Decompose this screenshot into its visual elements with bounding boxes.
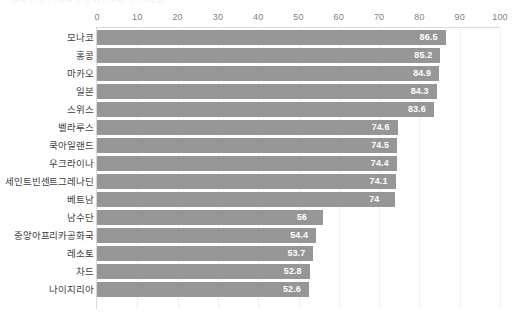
category-label: 쿡아일랜드 bbox=[49, 138, 94, 153]
bar-value-label: 83.6 bbox=[408, 102, 426, 117]
category-label: 벨라루스 bbox=[58, 120, 94, 135]
bar-value-label: 52.6 bbox=[283, 282, 301, 297]
bar-row: 모나코86.5 bbox=[0, 30, 528, 48]
category-label: 레소토 bbox=[67, 246, 94, 261]
x-tick-label: 30 bbox=[198, 12, 238, 22]
bar-row: 남수단56 bbox=[0, 210, 528, 228]
x-tick-label: 100 bbox=[480, 12, 520, 22]
bar bbox=[97, 48, 440, 63]
bar-rows: 모나코86.5홍콩85.2마카오84.9일본84.3스위스83.6벨라루스74.… bbox=[0, 30, 528, 300]
bar bbox=[97, 282, 309, 297]
category-label: 베트남 bbox=[67, 192, 94, 207]
bar-value-label: 52.8 bbox=[284, 264, 302, 279]
bar-row: 레소토53.7 bbox=[0, 246, 528, 264]
bar-row: 베트남74 bbox=[0, 192, 528, 210]
bar-row: 세인트빈센트그레나딘74.1 bbox=[0, 174, 528, 192]
category-label: 마카오 bbox=[67, 66, 94, 81]
bar-value-label: 74.1 bbox=[370, 174, 388, 189]
category-label: 차드 bbox=[76, 264, 94, 279]
bar-row: 홍콩85.2 bbox=[0, 48, 528, 66]
bar-row: 스위스83.6 bbox=[0, 102, 528, 120]
category-label: 스위스 bbox=[67, 102, 94, 117]
bar-value-label: 53.7 bbox=[287, 246, 305, 261]
bar-row: 중앙아프리카공화국54.4 bbox=[0, 228, 528, 246]
category-label: 나이지리아 bbox=[49, 282, 94, 297]
bar-chart: 세계 각국 기대수명 상위 / 하위 국가 비교 010203040506070… bbox=[0, 0, 528, 317]
bar-value-label: 85.2 bbox=[414, 48, 432, 63]
bar-value-label: 74.5 bbox=[371, 138, 389, 153]
bar bbox=[97, 156, 397, 171]
bar-value-label: 54.4 bbox=[290, 228, 308, 243]
bar bbox=[97, 84, 437, 99]
bar-row: 마카오84.9 bbox=[0, 66, 528, 84]
bar bbox=[97, 66, 439, 81]
x-tick-label: 60 bbox=[319, 12, 359, 22]
bar-row: 쿡아일랜드74.5 bbox=[0, 138, 528, 156]
bar-value-label: 74.6 bbox=[372, 120, 390, 135]
bar bbox=[97, 30, 446, 45]
x-tick-label: 0 bbox=[77, 12, 117, 22]
bar-row: 우크라이나74.4 bbox=[0, 156, 528, 174]
bar-row: 벨라루스74.6 bbox=[0, 120, 528, 138]
bar bbox=[97, 228, 316, 243]
x-tick-label: 40 bbox=[238, 12, 278, 22]
bar bbox=[97, 174, 396, 189]
x-tick-label: 50 bbox=[279, 12, 319, 22]
category-label: 중앙아프리카공화국 bbox=[14, 228, 94, 243]
x-tick-label: 10 bbox=[117, 12, 157, 22]
bar-row: 나이지리아52.6 bbox=[0, 282, 528, 300]
category-label: 일본 bbox=[76, 84, 94, 99]
bar-row: 차드52.8 bbox=[0, 264, 528, 282]
bar bbox=[97, 138, 397, 153]
category-label: 홍콩 bbox=[76, 48, 94, 63]
bar-value-label: 74 bbox=[369, 192, 379, 207]
bar-value-label: 84.9 bbox=[413, 66, 431, 81]
bar-value-label: 86.5 bbox=[420, 30, 438, 45]
bar bbox=[97, 246, 313, 261]
bar bbox=[97, 192, 395, 207]
bar-value-label: 74.4 bbox=[371, 156, 389, 171]
bar bbox=[97, 120, 398, 135]
bar bbox=[97, 210, 323, 225]
bar bbox=[97, 102, 434, 117]
category-label: 세인트빈센트그레나딘 bbox=[5, 174, 94, 189]
category-label: 모나코 bbox=[67, 30, 94, 45]
bar-value-label: 56 bbox=[297, 210, 307, 225]
x-tick-label: 70 bbox=[359, 12, 399, 22]
category-label: 우크라이나 bbox=[49, 156, 94, 171]
bar-value-label: 84.3 bbox=[411, 84, 429, 99]
x-tick-label: 90 bbox=[440, 12, 480, 22]
x-tick-label: 20 bbox=[158, 12, 198, 22]
bar bbox=[97, 264, 310, 279]
category-label: 남수단 bbox=[67, 210, 94, 225]
bar-row: 일본84.3 bbox=[0, 84, 528, 102]
x-tick-label: 80 bbox=[399, 12, 439, 22]
